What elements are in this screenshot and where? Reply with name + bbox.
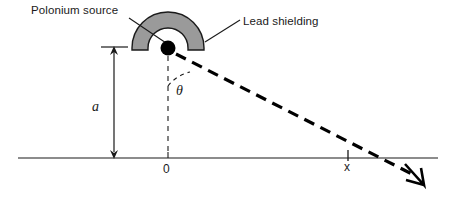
angle-label-theta: θ <box>176 84 183 98</box>
alpha-scattering-diagram: Polonium source Lead shielding a θ 0 x <box>0 0 450 201</box>
lead-shielding-label: Lead shielding <box>243 16 319 28</box>
polonium-source-label: Polonium source <box>31 5 118 17</box>
height-label-a: a <box>92 100 99 114</box>
alpha-particle-trajectory <box>176 54 412 174</box>
lead-shielding-leader-line <box>205 20 240 42</box>
height-dimension-arrow <box>101 46 128 159</box>
origin-label: 0 <box>163 163 170 175</box>
landing-point-label: x <box>344 161 350 173</box>
trajectory-arrowhead <box>405 164 424 185</box>
diagram-canvas <box>0 0 450 201</box>
polonium-source-dot <box>161 41 176 56</box>
